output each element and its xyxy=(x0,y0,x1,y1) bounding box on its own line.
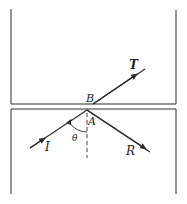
label-theta: θ xyxy=(72,133,78,143)
ftir-diagram: T B A θ I R xyxy=(0,0,187,204)
label-i: I xyxy=(44,140,50,154)
upper-block xyxy=(11,9,176,104)
label-r: R xyxy=(125,144,135,158)
label-t: T xyxy=(129,58,139,72)
label-a: A xyxy=(87,115,96,128)
incident-ray xyxy=(30,110,87,148)
angle-arc xyxy=(69,122,87,132)
label-b: B xyxy=(85,92,94,105)
transmitted-ray xyxy=(93,69,145,104)
reflected-ray xyxy=(87,110,150,152)
